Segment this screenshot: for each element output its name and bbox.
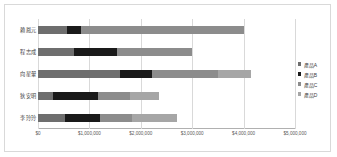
legend-label: 產品A [304,61,317,68]
bar-segment[interactable] [38,70,120,78]
gridline [295,19,296,129]
x-axis-tick-labels: $0$1,000,000$2,000,000$3,000,000$4,000,0… [38,131,295,143]
bar-segment[interactable] [38,26,67,34]
y-axis-tick-label: 賴鳳元 [6,26,36,34]
legend-label: 產品D [304,91,318,98]
bar-segment[interactable] [74,48,117,56]
bar-segment[interactable] [53,92,98,100]
y-axis-category-labels: 賴鳳元程志成向星翬狄安明李玲玲 [5,19,36,129]
x-axis-tick-label: $2,000,000 [129,131,152,136]
legend-label: 產品B [304,71,317,78]
x-axis-tick-label: $4,000,000 [232,131,255,136]
bar-row[interactable] [38,26,295,34]
bar-segment[interactable] [100,114,132,122]
bar-segment[interactable] [81,26,244,34]
legend-item[interactable]: 產品D [298,89,337,99]
bar-segment[interactable] [38,114,65,122]
legend-swatch-icon [298,82,301,85]
legend-swatch-icon [298,62,301,65]
bar-segment[interactable] [152,70,218,78]
bar-segment[interactable] [130,92,159,100]
y-axis-tick-label: 狄安明 [6,92,36,100]
bar-segment[interactable] [117,48,192,56]
bar-segment[interactable] [38,92,53,100]
legend-item[interactable]: 產品C [298,79,337,89]
legend-item[interactable]: 產品B [298,69,337,79]
y-axis-tick-label: 程志成 [6,48,36,56]
legend-swatch-icon [298,92,301,95]
bar-segment[interactable] [132,114,177,122]
legend-swatch-icon [298,72,301,75]
bar-segment[interactable] [67,26,81,34]
x-axis-line [38,128,295,129]
bar-segment[interactable] [65,114,100,122]
y-axis-tick-label: 向星翬 [6,70,36,78]
x-axis-tick-label: $1,000,000 [78,131,101,136]
bar-segment[interactable] [120,70,152,78]
bar-row[interactable] [38,48,295,56]
chart-legend: 產品A產品B產品C產品D [298,59,337,105]
x-axis-tick-label: $3,000,000 [181,131,204,136]
bar-row[interactable] [38,70,295,78]
y-axis-tick-label: 李玲玲 [6,114,36,122]
bar-row[interactable] [38,92,295,100]
legend-label: 產品C [304,81,318,88]
bar-segment[interactable] [38,48,74,56]
x-axis-tick-label: $5,000,000 [284,131,307,136]
plot-area [38,19,295,129]
chart-frame: 賴鳳元程志成向星翬狄安明李玲玲 $0$1,000,000$2,000,000$3… [4,4,331,152]
bar-segment[interactable] [218,70,251,78]
x-axis-tick-label: $0 [35,131,40,136]
legend-item[interactable]: 產品A [298,59,337,69]
bar-row[interactable] [38,114,295,122]
bar-segment[interactable] [98,92,130,100]
